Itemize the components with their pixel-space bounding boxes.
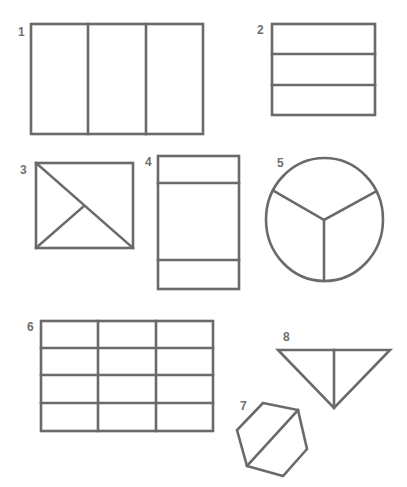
figure-4-rectangle-unequal-parts: 4 xyxy=(145,155,239,289)
figure-4-outline xyxy=(158,156,239,289)
figure-8-triangle-halves: 8 xyxy=(278,330,390,408)
figure-5-label: 5 xyxy=(277,156,284,170)
figure-7-diagonal xyxy=(247,410,298,466)
figure-6-grid-twelfths: 6 xyxy=(27,320,213,431)
figure-3-divider xyxy=(36,206,84,248)
figure-5-circle-thirds: 5 xyxy=(266,156,383,281)
figure-5-spoke xyxy=(274,191,324,220)
figure-4-label: 4 xyxy=(145,155,152,169)
figure-6-label: 6 xyxy=(27,320,34,334)
figure-8-label: 8 xyxy=(283,330,290,344)
figure-7-label: 7 xyxy=(240,399,247,413)
figure-1-label: 1 xyxy=(18,25,25,39)
figure-1-rectangle-thirds-vertical: 1 xyxy=(18,24,203,134)
figure-3-rectangle-triangles: 3 xyxy=(20,163,133,248)
figure-2-outline xyxy=(272,24,375,115)
figure-2-label: 2 xyxy=(257,23,264,37)
figure-5-spoke xyxy=(324,192,375,220)
figure-3-label: 3 xyxy=(20,163,27,177)
figure-7-hexagon-halves: 7 xyxy=(237,399,307,476)
figure-1-outline xyxy=(31,24,203,134)
figure-2-rectangle-thirds-horizontal: 2 xyxy=(257,23,375,115)
shapes-diagram: 1 2 3 4 5 6 xyxy=(0,0,407,487)
